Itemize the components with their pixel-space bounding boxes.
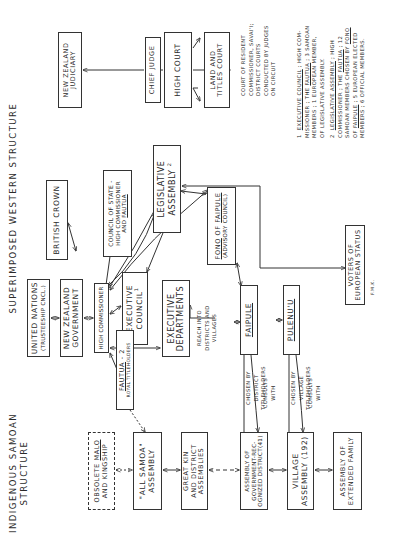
label-line: REACH INTO [196, 298, 204, 358]
text: ; 5 EUROPEAN ELECTED [352, 32, 358, 104]
footnotes: 1 EXECUTIVE COUNCIL ; HIGH COM- MISSIONE… [296, 3, 367, 138]
village-assembly-box: VILLAGE ASSEMBLY (192) [287, 432, 314, 510]
box-line: EXTENDED FAMILY [348, 437, 355, 505]
box-line: TITLES COURT [217, 43, 224, 96]
text: COUNCIL [135, 291, 144, 329]
box-line: LEGISLATIVE [157, 161, 166, 218]
label-line: CHOSEN BY [245, 358, 253, 418]
label-line: CONSULTS [262, 368, 270, 418]
box-line: ASSEMBLY [148, 449, 157, 493]
box-line: PULENU'U [287, 299, 296, 341]
heading-indigenous-structure: INDIGENOUS SAMOAN STRUCTURE [8, 408, 30, 538]
label-line: CHOSEN BY [290, 358, 298, 418]
united-nations-box: UNITED NATIONS (TRUSTEESHIP CNCL.) [27, 279, 50, 357]
label-line: ON CIRCUIT [270, 1, 278, 96]
signature: F.M.K. [370, 265, 377, 295]
court-of-resident-label: COURT OF RESIDENT COMMISSIONER, SAVAI'I;… [240, 1, 278, 96]
box-line: CHIEF JUDGE [149, 46, 156, 95]
text: ; HIGH COM- [296, 30, 302, 69]
box-line: FAIPULE [245, 303, 254, 337]
box-line: ROYAL TITLEHOLDERS [126, 342, 131, 397]
box-line: ASSEMBLY 2 [167, 162, 177, 215]
text: FONO [344, 27, 350, 44]
box-line: HIGH COMMISSIONER [98, 287, 104, 350]
footnote-title: EXECUTIVE COUNCIL [296, 69, 302, 130]
box-line: AND KINGSHIP [102, 444, 109, 499]
box-line: HIGH COURT [174, 43, 183, 97]
footnote-mark: 1 [133, 288, 139, 292]
label-line: WITH [270, 368, 278, 418]
box-line: ASSEMBLIES [198, 448, 205, 495]
text: FAIPULE [214, 193, 222, 223]
box-line: GOVERNMENT [72, 288, 81, 348]
text: OF [352, 128, 358, 138]
box-line: EXECUTIVE [126, 285, 135, 332]
text: MEMBERS ; 1 EUROPEAN MEMBER, [311, 36, 317, 138]
new-zealand-government-box: NEW ZEALAND GOVERNMENT [60, 279, 83, 357]
box-line: EUROPEAN STATUS [355, 229, 362, 300]
text: OF [214, 225, 222, 235]
box-line: UNITED NATIONS [31, 282, 40, 354]
high-commissioner-box: HIGH COMMISSIONER [94, 283, 109, 353]
footnote-mark: 2 [166, 162, 172, 166]
label-line: COMMISSIONER, SAVAI'I; [248, 1, 256, 96]
box-line: EXECUTIVE [167, 293, 176, 343]
text: MALO [93, 440, 101, 461]
legislative-assembly-box: LEGISLATIVE ASSEMBLY 2 [153, 145, 181, 233]
footnote-number: 2 [329, 134, 335, 138]
new-zealand-judiciary-box: NEW ZEALAND JUDICIARY [58, 32, 82, 108]
consults-with-label-2: CONSULTS WITH [307, 368, 322, 418]
heading-indigenous-line2: STRUCTURE [19, 408, 30, 538]
british-crown-box: BRITISH CROWN [46, 180, 68, 260]
text: MISSIONER ; THE [304, 86, 310, 138]
box-line: OGNIZED DISTRICT(41) [257, 435, 263, 506]
great-kin-assemblies-box: GREAT KIN AND DISTRICT ASSEMBLIES [181, 432, 208, 510]
label-line: WITH [315, 368, 323, 418]
text: ; 3 SAMOAN [304, 26, 310, 63]
box-line: ASSEMBLY (192) [301, 436, 310, 506]
heading-indigenous-line1: INDIGENOUS SAMOAN [8, 408, 19, 538]
box-line: FAUTUA - 2 [119, 349, 126, 391]
text: ; 12 [337, 36, 343, 50]
voters-european-status-box: VOTERS OF EUROPEAN STATUS [345, 225, 365, 305]
text: FAUTUA [304, 63, 310, 86]
footnote-1: 1 EXECUTIVE COUNCIL ; HIGH COM- MISSIONE… [296, 3, 326, 138]
text: OF LEGISLATIVE ASSEMBLY. [319, 58, 325, 138]
government-recognized-district-assembly-box: ASSEMBLY OF GOVERNMENT-REC- OGNIZED DIST… [240, 432, 268, 510]
box-line: COUNCIL OF STATE - [108, 180, 115, 247]
consults-with-label-1: CONSULTS WITH [262, 368, 277, 418]
land-and-titles-court-box: LAND AND TITLES COURT [204, 32, 230, 108]
box-line: JUDICIARY [70, 51, 77, 89]
text: ; HIGH [329, 40, 335, 61]
heading-western-structure: SUPERIMPOSED WESTERN STRUCTURE [8, 38, 19, 378]
text: ASSEMBLY [167, 169, 176, 215]
chief-judge-box: CHIEF JUDGE [145, 37, 161, 103]
obsolete-malo-box: OBSOLETE MALO AND KINGSHIP [88, 432, 115, 510]
reach-into-label: REACH INTO DISTRICTS AND VILLAGES [196, 298, 219, 358]
footnote-title: LEGISLATIVE ASSEMBLY [329, 61, 335, 130]
box-line: (ADVISORY COUNCIL) [222, 194, 228, 258]
faipule-box: FAIPULE [240, 285, 258, 355]
text: AND [121, 220, 127, 233]
high-court-box: HIGH COURT [164, 32, 192, 108]
extended-family-assembly-box: ASSEMBLY OF EXTENDED FAMILY [333, 432, 362, 510]
label-line: CONDUCTED BY JUDGES [263, 1, 271, 96]
executive-departments-box: EXECUTIVE DEPARTMENTS [162, 280, 190, 357]
text: FONO [214, 238, 222, 259]
label-line: COURT OF RESIDENT [240, 1, 248, 96]
label-line: DISTRICT COURTS [255, 1, 263, 96]
box-line: FONO OF FAIPULE [215, 193, 222, 260]
text: MEMBERS ; 6 OFFICIAL MEMBERS. [359, 38, 365, 138]
box-line: (TRUSTEESHIP CNCL.) [40, 285, 46, 351]
text: FAIPULE [352, 105, 358, 128]
label-line: DISTRICT [253, 358, 261, 418]
box-line: AND FAUTUA [121, 194, 127, 232]
pulenuu-box: PULENU'U [283, 285, 300, 355]
fono-of-faipule-box: FONO OF FAIPULE (ADVISORY COUNCIL) [207, 187, 236, 265]
fautua-box: FAUTUA - 2 ROYAL TITLEHOLDERS [116, 330, 134, 410]
footnote-number: 1 [296, 134, 302, 138]
text: - 2 [118, 349, 126, 362]
label-line: VILLAGE [298, 358, 306, 418]
label-line: DISTRICTS AND [204, 298, 212, 358]
text: COMMISSIONER ; THE [337, 72, 343, 138]
